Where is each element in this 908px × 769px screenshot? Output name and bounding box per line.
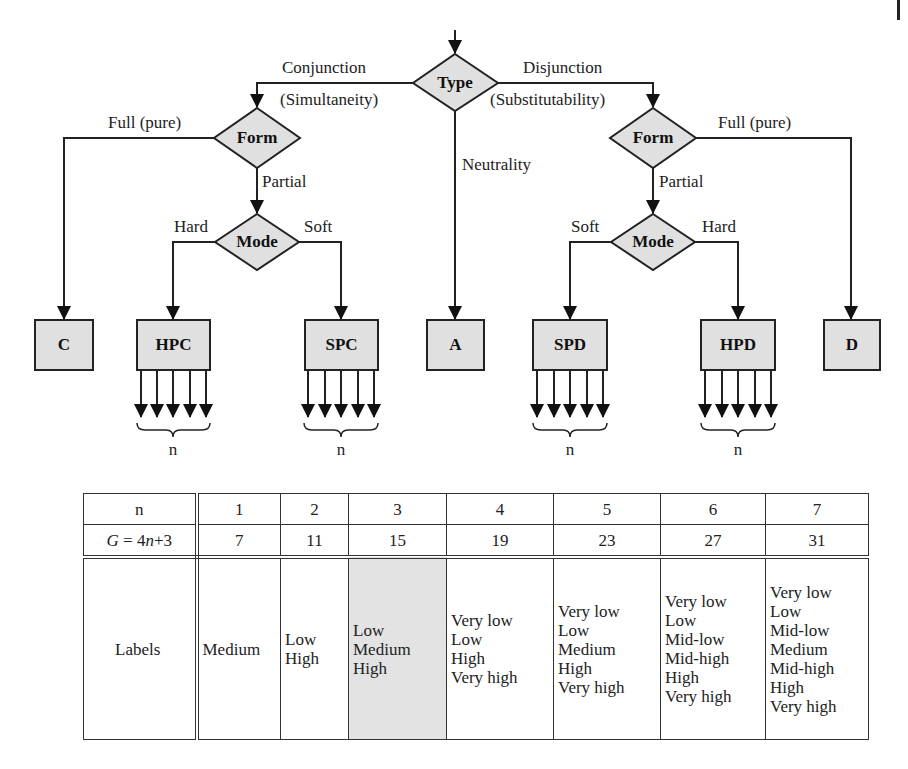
fanout-hpd (705, 370, 771, 417)
edge-label-hard-right: Hard (702, 217, 736, 237)
decision-type-label: Type (425, 73, 485, 93)
label-item: Very low (558, 602, 657, 621)
edge-label-partial-left: Partial (262, 172, 306, 192)
label-item: Medium (558, 640, 657, 659)
label-item: High (285, 649, 345, 668)
edge-label-neutrality: Neutrality (462, 155, 531, 175)
brace-spd (533, 423, 607, 437)
brace-hpd (701, 423, 775, 437)
edge-label-partial-right: Partial (659, 172, 703, 192)
decision-form-left-label: Form (227, 128, 287, 148)
cell-g-7: 31 (766, 525, 869, 558)
label-item: Low (770, 602, 865, 621)
cell-labels-5: Very lowLowMediumHighVery high (554, 557, 661, 740)
label-item: Mid-low (770, 621, 865, 640)
edge-label-full-right: Full (pure) (718, 113, 791, 133)
label-item: Very high (558, 678, 657, 697)
label-item: Low (285, 630, 345, 649)
edge-label-conjunction: Conjunction (282, 58, 366, 78)
outcome-spc-label: SPC (305, 335, 378, 355)
cell-n-3: 3 (349, 494, 447, 525)
cell-labels-2: LowHigh (281, 557, 349, 740)
fanout-spd (537, 370, 603, 417)
decision-form-right-label: Form (623, 128, 683, 148)
outcome-a-label: A (427, 335, 484, 355)
label-item: High (770, 678, 865, 697)
decision-mode-right-label: Mode (623, 232, 683, 252)
cell-g-5: 23 (554, 525, 661, 558)
cell-n-7: 7 (766, 494, 869, 525)
edge-label-full-left: Full (pure) (108, 113, 181, 133)
table-row-labels: Labels Medium LowHigh LowMediumHigh Very… (84, 557, 869, 740)
label-item: Very low (451, 611, 550, 630)
label-item: Low (665, 611, 762, 630)
label-item: High (353, 659, 443, 678)
brace-n-label-spd: n (555, 440, 585, 460)
outcome-hpd-label: HPD (701, 335, 775, 355)
label-item: Medium (203, 640, 278, 659)
brace-n-label-spc: n (326, 440, 356, 460)
row-header-labels: Labels (84, 557, 197, 740)
fanout-spc (308, 370, 374, 417)
fanout-arrows (141, 370, 771, 417)
label-item: Low (558, 621, 657, 640)
brace-n-label-hpc: n (158, 440, 188, 460)
cell-labels-6: Very lowLowMid-lowMid-highHighVery high (661, 557, 766, 740)
cell-n-1: 1 (197, 494, 281, 525)
outcome-hpc-label: HPC (137, 335, 210, 355)
cell-n-4: 4 (447, 494, 554, 525)
edge-label-soft-right: Soft (571, 217, 599, 237)
label-item: Very high (770, 697, 865, 716)
table-row-n: n 1 2 3 4 5 6 7 (84, 494, 869, 525)
table-row-g: G = 4n+3 7 11 15 19 23 27 31 (84, 525, 869, 558)
brace-spc (304, 423, 378, 437)
outcome-spd-label: SPD (533, 335, 607, 355)
linguistic-levels-table: n 1 2 3 4 5 6 7 G = 4n+3 7 11 15 19 23 2… (83, 493, 869, 740)
cell-g-1: 7 (197, 525, 281, 558)
edge-hard-right (695, 242, 738, 319)
label-item: High (558, 659, 657, 678)
edge-label-disjunction: Disjunction (523, 58, 602, 78)
edge-label-hard-left: Hard (174, 217, 208, 237)
cell-n-5: 5 (554, 494, 661, 525)
edge-label-simultaneity: (Simultaneity) (280, 90, 378, 110)
cell-g-2: 11 (281, 525, 349, 558)
cell-g-4: 19 (447, 525, 554, 558)
edge-soft-right (570, 242, 611, 319)
cell-labels-3: LowMediumHigh (349, 557, 447, 740)
edge-label-soft-left: Soft (304, 217, 332, 237)
edge-label-substitutability: (Substitutability) (490, 90, 605, 110)
brace-hpc (137, 423, 210, 437)
outcome-c-label: C (35, 335, 93, 355)
row-header-g: G = 4n+3 (84, 525, 197, 558)
decision-mode-left-label: Mode (227, 232, 287, 252)
label-item: High (665, 668, 762, 687)
cell-labels-1: Medium (197, 557, 281, 740)
label-item: Mid-low (665, 630, 762, 649)
label-item: Very high (451, 668, 550, 687)
label-item: Low (353, 621, 443, 640)
brace-n-label-hpd: n (723, 440, 753, 460)
label-item: Low (451, 630, 550, 649)
cell-n-6: 6 (661, 494, 766, 525)
cell-g-6: 27 (661, 525, 766, 558)
label-item: High (451, 649, 550, 668)
label-item: Very high (665, 687, 762, 706)
fanout-hpc (141, 370, 206, 417)
label-item: Very low (770, 583, 865, 602)
row-header-n: n (84, 494, 197, 525)
decision-tree-diagram (0, 0, 908, 480)
cell-labels-4: Very lowLowHighVery high (447, 557, 554, 740)
label-item: Mid-high (665, 649, 762, 668)
label-item: Medium (353, 640, 443, 659)
cell-g-3: 15 (349, 525, 447, 558)
label-item: Mid-high (770, 659, 865, 678)
cell-n-2: 2 (281, 494, 349, 525)
label-item: Very low (665, 592, 762, 611)
edge-soft-left (299, 242, 341, 319)
outcome-d-label: D (824, 335, 880, 355)
edge-hard-left (173, 242, 215, 319)
cell-labels-7: Very lowLowMid-lowMediumMid-highHighVery… (766, 557, 869, 740)
label-item: Medium (770, 640, 865, 659)
